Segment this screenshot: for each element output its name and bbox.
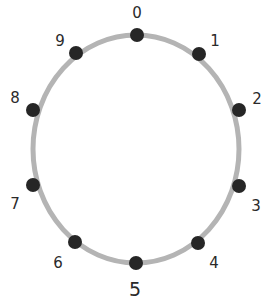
ring-dot-5: [129, 256, 143, 270]
ring-dot-6: [68, 235, 82, 249]
ring-dot-3: [232, 179, 246, 193]
ring-dots: [26, 28, 246, 270]
number-ring-diagram: 0123456789: [0, 0, 266, 306]
ring-dot-0: [130, 28, 144, 42]
ring-label-5: 5: [129, 278, 141, 300]
ring-label-3: 3: [251, 197, 261, 215]
ring-dot-9: [69, 46, 83, 60]
ring-label-1: 1: [210, 32, 220, 50]
ring-label-9: 9: [55, 32, 65, 50]
ring-track: [33, 35, 239, 263]
ring-dot-7: [26, 178, 40, 192]
ring-canvas: 0123456789: [0, 0, 266, 306]
ring-dot-4: [191, 236, 205, 250]
ring-label-7: 7: [10, 195, 20, 213]
ring-dot-1: [192, 47, 206, 61]
ring-label-8: 8: [10, 89, 20, 107]
ring-label-0: 0: [132, 4, 142, 22]
ring-labels: 0123456789: [10, 4, 262, 300]
ring-label-4: 4: [209, 254, 219, 272]
ring-label-2: 2: [252, 90, 262, 108]
ring-dot-2: [232, 103, 246, 117]
ring-label-6: 6: [53, 254, 63, 272]
ring-dot-8: [26, 103, 40, 117]
